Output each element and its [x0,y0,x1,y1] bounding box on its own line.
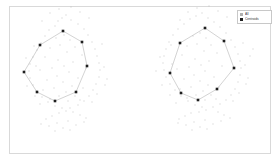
scatter-point [84,101,85,102]
scatter-point [196,16,197,17]
scatter-point [40,104,41,105]
scatter-point [55,131,56,132]
legend-swatch-all [240,13,243,16]
scatter-point [96,84,97,85]
scatter-point [197,8,198,9]
scatter-point [180,20,181,21]
scatter-point [30,78,31,79]
scatter-point [63,128,64,129]
scatter-point [84,122,85,123]
scatter-point [169,42,170,43]
scatter-point [26,58,27,59]
scatter-point [97,56,98,57]
scatter-point [89,18,90,19]
centroid-marker [169,72,172,75]
scatter-point [226,33,227,34]
scatter-point [55,26,56,27]
scatter-point [66,15,67,16]
scatter-point [181,96,182,97]
scatter-point [70,130,71,131]
scatter-point [62,108,63,109]
centroid-marker [39,44,42,47]
scatter-point [171,45,172,46]
scatter-point [241,68,242,69]
scatter-point [45,57,46,58]
scatter-point [97,94,98,95]
scatter-point [200,127,201,128]
scatter-point [191,87,192,88]
scatter-point [193,36,194,37]
scatter-point [170,84,171,85]
scatter-point [78,78,79,79]
plot-canvas [0,0,280,164]
scatter-point [83,88,84,89]
scatter-point [235,47,236,48]
scatter-point [166,77,167,78]
scatter-point [63,82,64,83]
scatter-point [250,56,251,57]
scatter-point [47,80,48,81]
scatter-point [50,99,51,100]
scatter-point [197,44,198,45]
scatter-point [185,116,186,117]
scatter-point [41,43,42,44]
scatter-point [182,55,183,56]
scatter-point [46,119,47,120]
scatter-point [73,62,74,63]
scatter-point [34,46,35,47]
scatter-point [204,51,205,52]
scatter-plot-figure: All Centroids [0,0,280,164]
centroid-marker [204,27,207,30]
scatter-point [235,89,236,90]
scatter-point [84,29,85,30]
scatter-point [50,48,51,49]
scatter-point [194,122,195,123]
scatter-point [75,96,76,97]
scatter-point [205,100,206,101]
scatter-point [89,96,90,97]
scatter-point [195,59,196,60]
cluster-edges-layer [24,28,234,101]
scatter-point [192,130,193,131]
scatter-point [160,57,161,58]
scatter-point [66,92,67,93]
scatter-point [209,6,210,7]
scatter-point [60,45,61,46]
cluster-edge-polygon [24,31,87,101]
scatter-point [201,65,202,66]
scatter-point [30,64,31,65]
scatter-point [67,52,68,53]
scatter-point [206,110,207,111]
centroid-marker [216,88,219,91]
scatter-point [73,112,74,113]
scatter-point [42,97,43,98]
centroid-marker [75,91,78,94]
scatter-point [71,20,72,21]
centroid-marker [180,92,183,95]
scatter-point [40,70,41,71]
scatter-point [216,99,217,100]
centroid-marker [81,41,84,44]
scatter-point [59,9,60,10]
scatter-point [176,103,177,104]
scatter-point [80,115,81,116]
scatter-point [222,66,223,67]
scatter-point [211,95,212,96]
scatter-point [52,68,53,69]
scatter-point [102,44,103,45]
scatter-point [78,105,79,106]
scatter-point [253,49,254,50]
scatter-point [220,104,221,105]
scatter-point [68,101,69,102]
scatter-point [43,90,44,91]
scatter-point [238,82,239,83]
scatter-point [194,75,195,76]
scatter-point [99,63,100,64]
scatter-point [105,85,106,86]
scatter-point [164,56,165,57]
scatter-point [178,123,179,124]
scatter-point [72,86,73,87]
scatter-point [80,12,81,13]
scatter-point [231,95,232,96]
legend-entry-centroids: Centroids [240,17,269,22]
